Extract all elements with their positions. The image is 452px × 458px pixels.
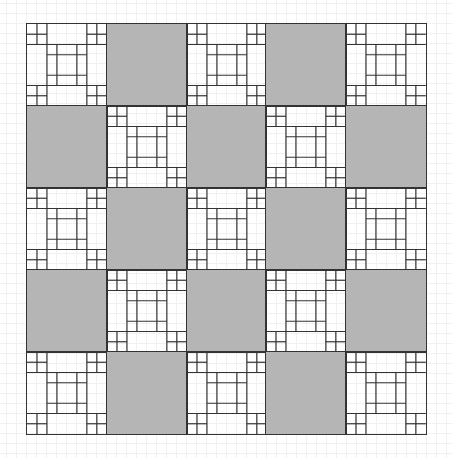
solid-block bbox=[187, 106, 267, 188]
pieced-block-seams bbox=[27, 188, 107, 270]
pieced-block bbox=[27, 24, 107, 106]
pieced-block-seams bbox=[107, 106, 187, 188]
pieced-block-seams bbox=[27, 352, 107, 434]
pieced-block bbox=[346, 188, 426, 270]
solid-block bbox=[266, 24, 346, 106]
solid-block bbox=[27, 106, 107, 188]
solid-block bbox=[346, 106, 426, 188]
pieced-block bbox=[187, 188, 267, 270]
solid-block bbox=[107, 24, 187, 106]
pieced-block-seams bbox=[266, 270, 346, 352]
pieced-block-seams bbox=[266, 106, 346, 188]
pieced-block bbox=[107, 270, 187, 352]
solid-block bbox=[107, 188, 187, 270]
pieced-block-seams bbox=[346, 188, 426, 270]
pieced-block-seams bbox=[187, 24, 267, 106]
pieced-block bbox=[27, 352, 107, 434]
pieced-block bbox=[187, 352, 267, 434]
pieced-block-seams bbox=[346, 352, 426, 434]
pieced-block-seams bbox=[107, 270, 187, 352]
solid-block bbox=[187, 270, 267, 352]
pieced-block bbox=[27, 188, 107, 270]
pieced-block-seams bbox=[27, 24, 107, 106]
solid-block bbox=[346, 270, 426, 352]
pieced-block bbox=[346, 352, 426, 434]
solid-block bbox=[107, 352, 187, 434]
pieced-block-seams bbox=[187, 352, 267, 434]
pieced-block bbox=[266, 270, 346, 352]
quilt-grid bbox=[26, 23, 427, 435]
solid-block bbox=[266, 188, 346, 270]
pieced-block bbox=[346, 24, 426, 106]
pieced-block-seams bbox=[187, 188, 267, 270]
pieced-block-seams bbox=[346, 24, 426, 106]
solid-block bbox=[27, 270, 107, 352]
pieced-block bbox=[107, 106, 187, 188]
solid-block bbox=[266, 352, 346, 434]
pieced-block bbox=[187, 24, 267, 106]
pieced-block bbox=[266, 106, 346, 188]
